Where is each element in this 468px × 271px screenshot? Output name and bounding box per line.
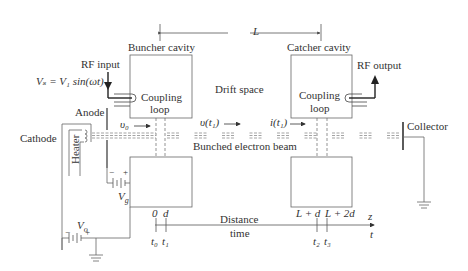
- vg-minus: −: [109, 168, 114, 177]
- axis-t-label: t: [370, 229, 373, 240]
- electron-beam: [92, 133, 400, 138]
- t1-label: t₁: [162, 236, 169, 247]
- buncher-coupling-label: Coupling: [141, 92, 182, 103]
- rf-input-label: RF input: [81, 59, 120, 70]
- rf-input-coupling: [104, 72, 136, 106]
- buncher-cavity: [130, 55, 192, 207]
- L-symbol: L: [253, 25, 259, 37]
- catcher-cavity-label: Catcher cavity: [287, 42, 351, 53]
- anode-label: Anode: [75, 107, 104, 118]
- buncher-loop-label: loop: [150, 104, 170, 115]
- cathode-label: Cathode: [20, 133, 57, 144]
- t0-label: t₀: [151, 236, 158, 247]
- axis-distance-label: Distance: [220, 214, 258, 225]
- v0-label: υ₀: [120, 119, 129, 130]
- rf-input-equation: Vₛ = V₁ sin(ωt): [36, 76, 104, 87]
- rf-output-coupling: [345, 75, 379, 106]
- vo-plus: +: [85, 228, 90, 237]
- axis-pos-d: d: [163, 208, 169, 219]
- drift-length-dimension: [160, 24, 321, 41]
- catcher-cavity: [291, 55, 352, 207]
- axis-time-label: time: [230, 228, 250, 239]
- beam-battery: [62, 207, 130, 261]
- vt1-label: υ(t₁): [200, 117, 219, 128]
- drift-length-label: L: [253, 26, 259, 37]
- drift-space-label: Drift space: [215, 84, 264, 95]
- heater-label: Heater: [70, 135, 81, 164]
- collector: [403, 122, 431, 208]
- catcher-loop-label: loop: [310, 103, 330, 114]
- vg-plus: +: [123, 168, 128, 177]
- it1-label: i(t₁): [270, 117, 287, 128]
- catcher-coupling-label: Coupling: [299, 90, 340, 101]
- t2-label: t₂: [313, 236, 320, 247]
- axis-pos-0: 0: [152, 208, 158, 219]
- beam-label: Bunched electron beam: [193, 141, 297, 152]
- axis-pos-L-plus-d: L + d: [296, 208, 320, 219]
- rf-output-label: RF output: [357, 60, 401, 71]
- distance-time-axis: [155, 218, 374, 232]
- axis-pos-L-plus-2d: L + 2d: [325, 208, 355, 219]
- collector-label: Collector: [407, 121, 448, 132]
- t3-label: t₃: [324, 236, 331, 247]
- vg-label: Vg: [118, 191, 129, 205]
- buncher-cavity-label: Buncher cavity: [128, 42, 195, 53]
- vo-minus: −: [65, 228, 70, 237]
- axis-z-label: z: [368, 211, 372, 222]
